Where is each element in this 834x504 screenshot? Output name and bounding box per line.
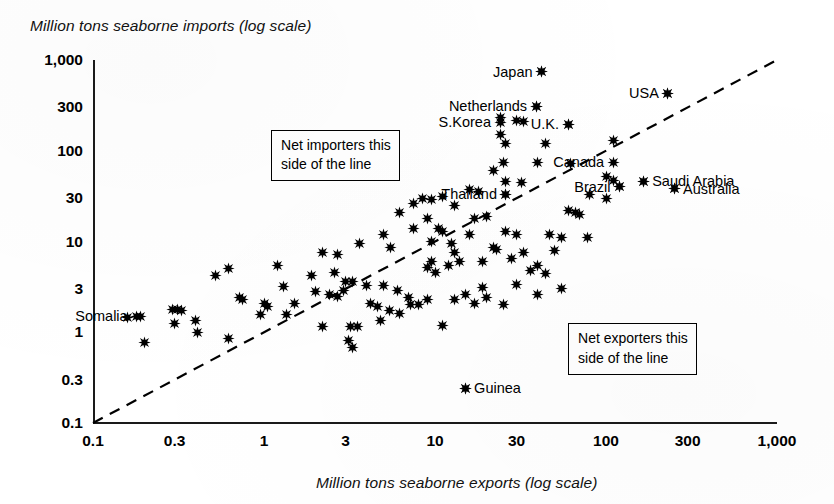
data-point-marker [209, 269, 222, 282]
x-tick-label: 1,000 [758, 432, 797, 450]
data-point-marker-somalia [130, 310, 143, 323]
data-point-marker [468, 212, 481, 225]
data-point-marker [429, 266, 442, 279]
data-point-marker [425, 193, 438, 206]
x-tick-label: 100 [593, 432, 619, 450]
x-axis-title: Million tons seaborne exports (log scale… [316, 474, 598, 492]
annotation-line: side of the line [578, 349, 688, 368]
data-point-marker [404, 298, 417, 311]
data-point-marker [517, 246, 530, 259]
data-point-marker [191, 326, 204, 339]
data-point-marker [436, 319, 449, 332]
point-label-usa: USA [629, 85, 659, 101]
data-point-marker [353, 237, 366, 250]
data-point-marker [476, 281, 489, 294]
data-point-marker [497, 298, 510, 311]
data-point-marker-u-k- [562, 118, 575, 131]
point-label-netherlands: Netherlands [449, 98, 527, 114]
data-point-marker [222, 262, 235, 275]
data-point-marker [175, 304, 188, 317]
data-point-marker [468, 297, 481, 310]
data-point-marker [510, 278, 523, 291]
data-point-marker [448, 293, 461, 306]
data-point-marker [393, 206, 406, 219]
point-label-u-k-: U.K. [531, 116, 559, 132]
data-point-marker [377, 279, 390, 292]
annotation-line: Net importers this [281, 136, 391, 155]
data-point-marker-brazil [613, 180, 626, 193]
data-point-marker-s-korea [494, 116, 507, 129]
data-point-marker [236, 293, 249, 306]
data-point-marker [346, 341, 359, 354]
point-label-somalia: Somalia [75, 308, 127, 324]
data-point-marker [360, 279, 373, 292]
annotation-net-exporters: Net exporters thisside of the line [568, 323, 697, 375]
y-tick-label: 1,000 [44, 51, 83, 69]
data-point-marker [539, 267, 552, 280]
x-tick-label: 10 [426, 432, 443, 450]
data-point-marker [463, 228, 476, 241]
x-tick-label: 3 [341, 432, 350, 450]
point-label-guinea: Guinea [474, 380, 521, 396]
point-label-s-korea: S.Korea [439, 114, 491, 130]
data-point-marker [539, 137, 552, 150]
data-point-marker-japan [535, 65, 548, 78]
point-label-thailand: Thailand [441, 186, 497, 202]
x-tick-label: 0.3 [164, 432, 186, 450]
data-point-marker-usa [661, 87, 674, 100]
data-point-marker [573, 208, 586, 221]
data-point-marker [476, 255, 489, 268]
data-point-marker-thailand [499, 188, 512, 201]
data-point-marker [531, 156, 544, 169]
data-point-marker [384, 241, 397, 254]
data-point-marker [222, 332, 235, 345]
y-tick-label: 1 [74, 323, 83, 341]
scatter-chart: Million tons seaborne imports (log scale… [0, 0, 834, 504]
y-tick-label: 300 [57, 98, 83, 116]
annotation-line: side of the line [281, 155, 391, 174]
data-point-marker [453, 255, 466, 268]
y-tick-label: 10 [66, 233, 83, 251]
data-point-marker [499, 137, 512, 150]
data-point-marker [499, 175, 512, 188]
data-point-marker-canada [607, 156, 620, 169]
data-point-marker [524, 264, 537, 277]
y-tick-label: 0.1 [61, 414, 83, 432]
point-label-canada: Canada [553, 154, 604, 170]
data-point-marker [490, 243, 503, 256]
y-tick-label: 100 [57, 142, 83, 160]
data-point-marker [421, 293, 434, 306]
x-tick-label: 0.1 [82, 432, 104, 450]
annotation-net-importers: Net importers thisside of the line [271, 130, 400, 182]
data-point-marker [548, 244, 561, 257]
data-point-marker [280, 308, 293, 321]
data-point-marker [480, 210, 493, 223]
data-point-marker [517, 115, 530, 128]
data-point-marker [305, 269, 318, 282]
x-tick-label: 30 [508, 432, 525, 450]
data-point-marker [331, 248, 344, 261]
data-point-marker [531, 288, 544, 301]
data-point-marker [337, 284, 350, 297]
data-point-marker-netherlands [530, 100, 543, 113]
data-point-marker [316, 246, 329, 259]
data-point-marker [510, 228, 523, 241]
data-point-marker [254, 308, 267, 321]
data-point-marker [316, 320, 329, 333]
y-tick-label: 30 [66, 189, 83, 207]
data-point-marker [487, 164, 500, 177]
data-point-marker [581, 231, 594, 244]
point-label-australia: Australia [683, 181, 739, 197]
data-point-marker [555, 231, 568, 244]
data-point-marker-saudi-arabia [637, 175, 650, 188]
data-point-marker [138, 336, 151, 349]
data-point-marker-guinea [459, 382, 472, 395]
data-point-marker [309, 285, 322, 298]
data-point-marker [505, 252, 518, 265]
data-point-marker [407, 197, 420, 210]
data-point-marker [607, 134, 620, 147]
data-point-marker [277, 280, 290, 293]
data-point-marker [168, 317, 181, 330]
y-tick-label: 0.3 [61, 371, 83, 389]
x-tick-label: 300 [675, 432, 701, 450]
